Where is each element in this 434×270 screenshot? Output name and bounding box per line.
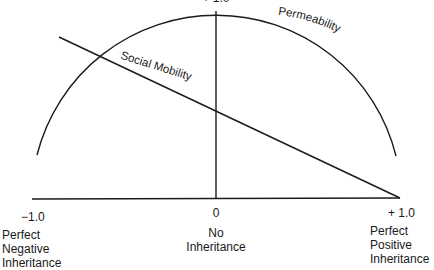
center-tick-label: 0 xyxy=(196,206,236,220)
center-axis-label-line-1: No xyxy=(176,226,256,240)
right-tick-label: + 1.0 xyxy=(388,206,415,220)
center-axis-label-line-2: Inheritance xyxy=(176,240,256,254)
horizontal-axis xyxy=(32,198,400,199)
right-axis-label-line-3: Inheritance xyxy=(370,252,429,266)
right-axis-label-line-2: Positive xyxy=(370,238,429,252)
left-tick-label: −1.0 xyxy=(21,210,45,224)
left-axis-label-line-3: Inheritance xyxy=(2,256,61,270)
top-tick-label: + 1.0 xyxy=(196,0,236,5)
social-mobility-line xyxy=(59,37,400,198)
social-mobility-label: Social Mobility xyxy=(119,49,193,82)
left-axis-label-line-2: Negative xyxy=(2,242,61,256)
right-axis-label-line-1: Perfect xyxy=(370,224,429,238)
right-axis-label: Perfect Positive Inheritance xyxy=(370,224,429,266)
left-axis-label-line-1: Perfect xyxy=(2,228,61,242)
center-axis-label: No Inheritance xyxy=(176,226,256,254)
left-axis-label: Perfect Negative Inheritance xyxy=(2,228,61,270)
